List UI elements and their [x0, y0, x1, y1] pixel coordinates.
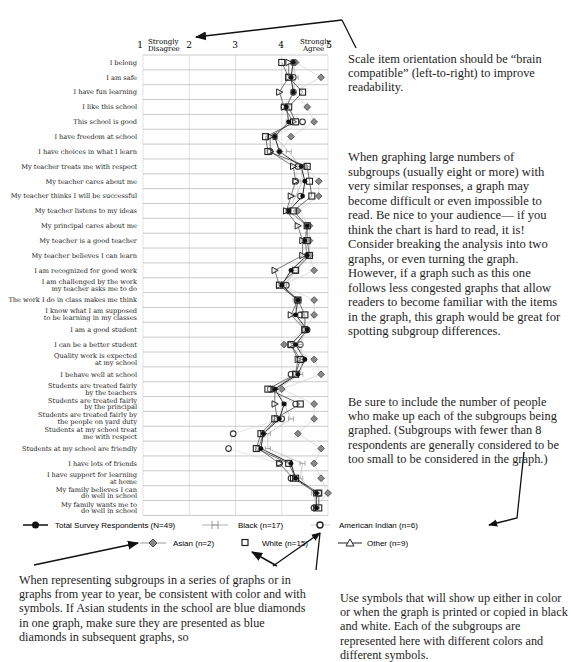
row-label: My teacher treats me with respect: [21, 163, 137, 171]
row-label: Students are treated fairlyby the princi…: [48, 397, 137, 412]
filled-circle-marker: [302, 238, 307, 243]
open-circle-icon: [317, 522, 323, 528]
filled-circle-marker: [277, 416, 282, 421]
x-axis-header: 1 Strongly Disagree 2 3 4 Strongly Agree…: [137, 38, 332, 53]
row-label: Students at my school are friendly: [22, 445, 137, 453]
filled-circle-marker: [284, 105, 289, 110]
arrow-to-scale-header: [196, 20, 342, 37]
filled-circle-marker: [300, 194, 305, 199]
note-symbols: Use symbols that will show up either in …: [340, 591, 570, 662]
diamond-marker: [318, 371, 325, 378]
row-label: I belong: [110, 59, 138, 67]
filled-circle-marker: [291, 60, 296, 65]
filled-circle-marker: [305, 253, 310, 258]
row-label: Students are treated fairlyby the teache…: [48, 382, 138, 397]
legend-label-other: Other (n=9): [367, 539, 408, 548]
diamond-icon: [149, 539, 157, 547]
x-tick-1: 1: [137, 40, 143, 50]
diamond-marker: [315, 193, 322, 200]
strongly-agree-line2: Agree: [302, 45, 324, 53]
filled-circle-marker: [314, 506, 319, 511]
diamond-marker: [288, 133, 295, 140]
diamond-marker: [311, 401, 318, 408]
row-label: My teacher listens to my ideas: [35, 207, 138, 215]
filled-circle-marker: [305, 327, 310, 332]
row-label: My family believes I cando well in schoo…: [56, 486, 138, 501]
legend-label-black: Black (n=17): [238, 521, 283, 530]
row-label: I like this school: [82, 103, 137, 111]
open-square-marker: [265, 149, 271, 155]
open-square-marker: [272, 416, 278, 422]
filled-circle-marker: [259, 446, 264, 451]
row-label: My teacher thinks I will be successful: [11, 192, 137, 200]
open-square-marker: [297, 401, 303, 407]
legend-item-asian: Asian (n=2): [140, 539, 214, 548]
open-square-marker: [279, 59, 285, 65]
legend-label-asian: Asian (n=2): [173, 539, 214, 548]
legend-item-total: Total Survey Respondents (N=49): [23, 521, 176, 530]
row-label: My teacher believes I can learn: [31, 252, 137, 260]
filled-circle-marker: [279, 283, 284, 288]
row-label: I have fun learning: [73, 88, 137, 96]
open-square-marker: [300, 89, 306, 95]
filled-circle-marker: [289, 268, 294, 273]
arrow-to-american-indian-marker: [273, 533, 320, 566]
filled-circle-marker: [272, 387, 277, 392]
row-label: The work I do in class makes me think: [8, 296, 138, 304]
diamond-marker: [311, 297, 318, 304]
open-square-marker: [297, 356, 303, 362]
note-consistency: When representing subgroups in a series …: [19, 573, 315, 644]
filled-circle-marker: [299, 164, 304, 169]
open-square-marker: [302, 312, 308, 318]
diamond-marker: [311, 311, 318, 318]
row-label: My family wants me todo well in school: [61, 501, 137, 516]
row-label: My teacher cares about me: [45, 178, 137, 186]
x-tick-5: 5: [326, 40, 332, 50]
bowtie-marker: [289, 416, 294, 421]
open-square-marker: [253, 446, 259, 452]
filled-circle-icon: [32, 522, 39, 529]
note-include-n: Be sure to include the number of people …: [348, 395, 566, 466]
open-circle-marker: [226, 446, 232, 452]
filled-circle-marker: [302, 179, 307, 184]
row-labels: I belongI am safeI have fun learningI li…: [8, 59, 138, 516]
row-label: I have freedom at school: [54, 133, 137, 141]
filled-circle-marker: [302, 357, 307, 362]
open-square-icon: [242, 540, 248, 546]
open-square-marker: [263, 134, 269, 140]
legend-item-american-indian: American Indian (n=6): [311, 521, 418, 530]
row-label: I am recognized for good work: [34, 267, 138, 275]
row-label: I have support for learningat home: [47, 471, 138, 486]
filled-circle-marker: [289, 461, 294, 466]
legend-label-american-indian: American Indian (n=6): [339, 521, 418, 530]
open-square-marker: [290, 208, 296, 214]
legend-item-other: Other (n=9): [338, 539, 408, 548]
row-label: Quality work is expectedat my school: [54, 352, 138, 367]
diamond-marker: [318, 445, 325, 452]
diamond-marker: [311, 460, 318, 467]
strongly-disagree-line2: Disagree: [148, 45, 180, 53]
row-label: My principal cares about me: [41, 222, 137, 230]
diamond-marker: [311, 267, 318, 274]
open-square-marker: [288, 342, 294, 348]
arrow-to-asian: [34, 543, 138, 565]
x-tick-3: 3: [232, 40, 238, 50]
row-label: I can be a better student: [54, 341, 137, 349]
filled-circle-marker: [314, 491, 319, 496]
filled-circle-marker: [261, 431, 266, 436]
open-square-marker: [307, 178, 313, 184]
filled-circle-marker: [286, 209, 291, 214]
row-label: My teacher is a good teacher: [39, 237, 138, 245]
legend-label-total: Total Survey Respondents (N=49): [55, 521, 176, 530]
diamond-marker: [318, 475, 325, 482]
filled-circle-marker: [293, 312, 298, 317]
filled-circle-marker: [272, 134, 277, 139]
open-square-marker: [304, 163, 310, 169]
row-label: Students are treated fairly bythe people…: [38, 411, 137, 426]
row-label: This school is good: [73, 118, 137, 126]
open-circle-marker: [300, 119, 306, 125]
row-label: I have choices in what I learn: [38, 148, 138, 156]
row-label: I am challenged by the workmy teacher as…: [42, 278, 138, 293]
open-square-marker: [309, 193, 315, 199]
